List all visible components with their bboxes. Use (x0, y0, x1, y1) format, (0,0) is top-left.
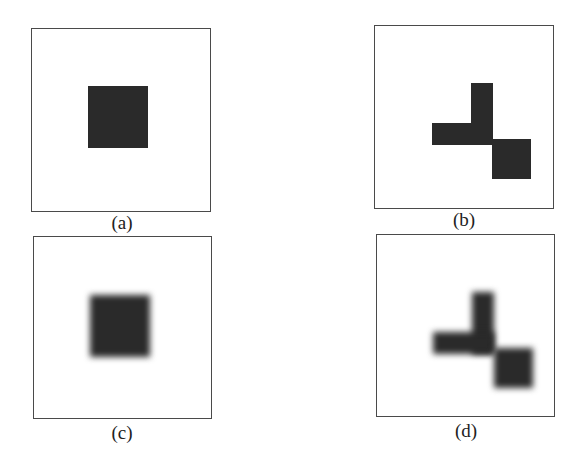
panel-d-frame (376, 234, 555, 417)
caption-c: (c) (92, 422, 152, 444)
sharp-offset-square (492, 139, 531, 179)
panel-c-frame (33, 236, 212, 419)
sharp-horizontal-bar (432, 123, 493, 145)
caption-b: (b) (434, 209, 494, 231)
caption-a: (a) (92, 212, 152, 234)
blurred-horizontal-bar (433, 332, 494, 354)
sharp-square (88, 86, 148, 148)
caption-d: (d) (436, 420, 496, 442)
blurred-offset-square (494, 348, 533, 388)
blurred-square (90, 295, 150, 357)
panel-a-frame (31, 28, 211, 212)
panel-b-frame (374, 25, 554, 209)
